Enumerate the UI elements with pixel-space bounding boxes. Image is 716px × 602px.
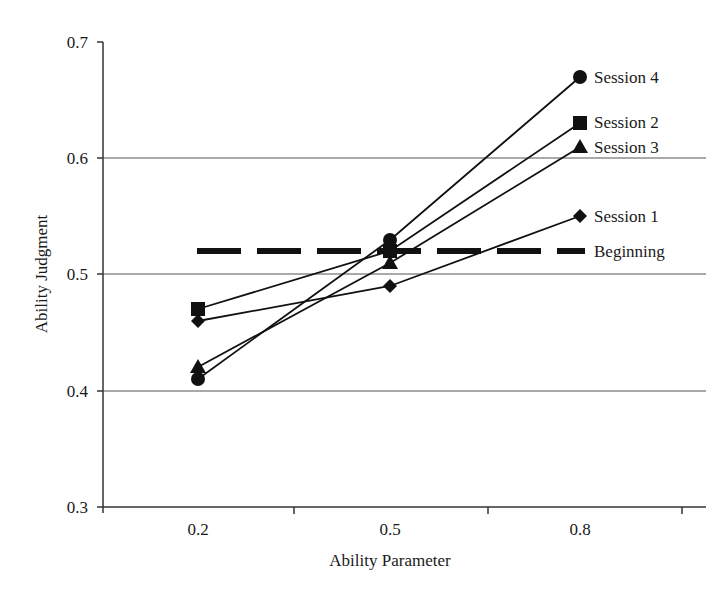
y-tick-label: 0.5 <box>67 265 88 284</box>
triangle-marker <box>572 139 588 153</box>
label-session-2: Session 2 <box>594 113 659 132</box>
circle-marker <box>383 233 397 247</box>
label-session-4: Session 4 <box>594 68 659 87</box>
x-axis-title: Ability Parameter <box>329 551 451 570</box>
line-chart: 0.7 0.6 0.5 0.4 0.3 0.2 0.5 0.8 Ability … <box>0 0 716 602</box>
diamond-marker <box>191 314 205 328</box>
series-labels: Session 4 Session 2 Session 3 Session 1 … <box>594 68 665 261</box>
series-line-session-4 <box>198 77 580 379</box>
y-tick-label: 0.4 <box>67 382 89 401</box>
label-session-3: Session 3 <box>594 138 659 157</box>
x-tick-label: 0.2 <box>187 520 208 539</box>
y-tick-label: 0.6 <box>67 149 88 168</box>
x-tick-label: 0.8 <box>569 520 590 539</box>
square-marker <box>573 116 587 130</box>
series-lines <box>198 77 580 379</box>
label-beginning: Beginning <box>594 242 665 261</box>
circle-marker <box>191 372 205 386</box>
y-tick-labels: 0.7 0.6 0.5 0.4 0.3 <box>67 33 89 517</box>
label-session-1: Session 1 <box>594 207 659 226</box>
gridlines <box>103 158 706 391</box>
diamond-marker <box>573 209 587 223</box>
square-marker <box>191 302 205 316</box>
diamond-marker <box>383 279 397 293</box>
y-axis-title: Ability Judgment <box>32 214 51 333</box>
y-tick-label: 0.3 <box>67 498 88 517</box>
x-tick-labels: 0.2 0.5 0.8 <box>187 520 590 539</box>
triangle-marker <box>190 359 206 373</box>
y-tick-label: 0.7 <box>67 33 89 52</box>
circle-marker <box>573 70 587 84</box>
x-tick-label: 0.5 <box>379 520 400 539</box>
